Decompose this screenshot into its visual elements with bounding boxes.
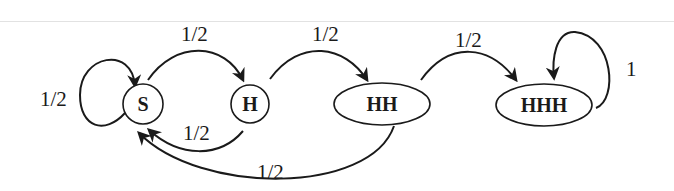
node-hh: HH	[334, 83, 430, 125]
node-hhh: HHH	[496, 84, 592, 126]
edge-h-to-hh: 1/2	[270, 22, 367, 80]
edge-hh-to-hhh: 1/2	[421, 28, 516, 80]
edge-label-s-s: 1/2	[40, 87, 67, 111]
edge-s-to-s: 1/2	[40, 60, 135, 126]
edge-label-hh-s: 1/2	[257, 160, 284, 184]
edge-label-h-hh: 1/2	[312, 22, 339, 46]
node-label-hh: HH	[366, 93, 398, 115]
node-label-h: H	[242, 93, 258, 115]
node-label-s: S	[137, 93, 148, 115]
edge-label-h-s: 1/2	[183, 121, 210, 145]
edge-s-to-h: 1/2	[148, 22, 243, 80]
edge-h-to-s: 1/2	[149, 121, 243, 151]
edge-label-s-h: 1/2	[181, 22, 208, 46]
node-h: H	[231, 85, 269, 123]
edge-hh-to-s: 1/2	[139, 126, 394, 184]
node-label-hhh: HHH	[521, 94, 568, 116]
edge-label-hh-hhh: 1/2	[455, 28, 482, 52]
edge-label-hhh-hhh: 1	[626, 57, 637, 81]
state-diagram: 1/2 1/2 1/2 1/2 1/2 1/2 1 S H	[0, 0, 674, 191]
node-s: S	[123, 84, 163, 124]
